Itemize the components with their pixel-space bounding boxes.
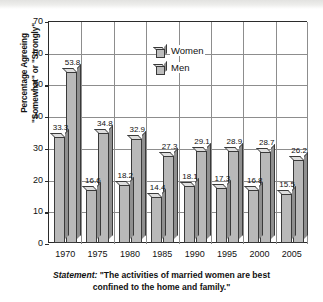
bar-value-label: 32.9: [126, 125, 149, 134]
gridline-vertical: [276, 22, 277, 244]
bar-women-1975: [86, 190, 97, 243]
x-tick-label: 1990: [180, 249, 210, 259]
bar-value-label: 18.1: [179, 172, 202, 181]
cube-icon: [156, 64, 167, 75]
y-tick-label: 70: [19, 16, 43, 26]
chart-figure: Percentage Agreeing "Somewhat" or "Stron…: [0, 0, 323, 302]
y-tick-mark: [45, 212, 49, 213]
y-tick-mark: [45, 244, 49, 245]
y-tick-mark: [45, 85, 49, 86]
gridline-vertical: [243, 22, 244, 244]
chart-caption: Statement: "The activities of married wo…: [10, 270, 313, 293]
bar-value-label: 18.2: [114, 171, 137, 180]
x-tick-label: 1970: [50, 249, 80, 259]
y-tick-mark: [45, 149, 49, 150]
chart-legend: Women Men: [152, 42, 205, 76]
y-tick-mark: [45, 117, 49, 118]
bar-value-label: 28.7: [255, 138, 278, 147]
bar-value-label: 16.6: [81, 176, 104, 185]
cube-icon: [156, 47, 167, 58]
y-tick-mark: [45, 181, 49, 182]
bar-women-2000: [248, 190, 259, 243]
legend-item-women: Women: [152, 42, 205, 59]
x-tick-label: 1985: [147, 249, 177, 259]
scan-band: [0, 0, 323, 9]
y-tick-label: 20: [19, 175, 43, 185]
y-tick-label: 40: [19, 111, 43, 121]
gridline-vertical: [211, 22, 212, 244]
bar-women-1970: [54, 137, 65, 243]
bar-women-1990: [184, 186, 195, 243]
bar-value-label: 34.8: [93, 119, 116, 128]
caption-line-2: confined to the home and family.": [93, 282, 231, 292]
y-tick-label: 60: [19, 48, 43, 58]
bar-value-label: 29.1: [191, 137, 214, 146]
bar-women-2005: [281, 194, 292, 243]
bar-value-label: 14.4: [146, 183, 169, 192]
bar-value-label: 27.3: [158, 142, 181, 151]
bar-value-label: 53.8: [61, 58, 84, 67]
bar-value-label: 28.9: [223, 137, 246, 146]
y-tick-label: 30: [19, 143, 43, 153]
bar-women-1980: [119, 185, 130, 243]
x-tick-label: 1980: [115, 249, 145, 259]
bar-value-label: 33.3: [49, 123, 72, 132]
bar-value-label: 15.5: [276, 180, 299, 189]
legend-label-men: Men: [170, 62, 190, 73]
y-tick-label: 10: [19, 206, 43, 216]
x-tick-label: 2000: [244, 249, 274, 259]
caption-prefix: Statement:: [53, 270, 97, 280]
x-tick-label: 1975: [83, 249, 113, 259]
y-tick-mark: [45, 22, 49, 23]
bar-value-label: 26.2: [288, 146, 311, 155]
y-tick-label: 50: [19, 79, 43, 89]
legend-label-women: Women: [170, 45, 205, 56]
x-tick-label: 2005: [277, 249, 307, 259]
legend-item-men: Men: [152, 59, 205, 76]
bar-women-1995: [216, 188, 227, 243]
bar-women-1985: [151, 197, 162, 243]
caption-line-1: "The activities of married women are bes…: [100, 270, 270, 280]
x-tick-label: 1995: [212, 249, 242, 259]
bar-value-label: 17.3: [211, 174, 234, 183]
bar-value-label: 16.8: [243, 176, 266, 185]
y-tick-mark: [45, 54, 49, 55]
gridline-vertical: [114, 22, 115, 244]
y-tick-label: 0: [19, 238, 43, 248]
gridline-vertical: [81, 22, 82, 244]
